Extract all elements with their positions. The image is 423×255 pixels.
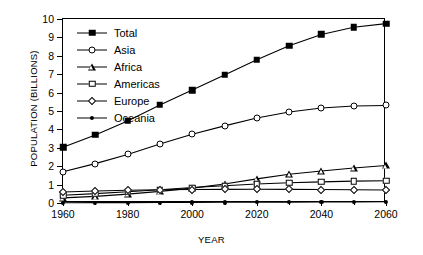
y-tick [57, 185, 63, 186]
data-point-asia [350, 103, 357, 110]
x-tick [257, 201, 258, 206]
legend-marker-icon [77, 78, 107, 90]
y-tick-label: 8 [48, 51, 54, 62]
data-point-americas [318, 179, 325, 186]
y-tick [57, 19, 63, 20]
data-point-asia [124, 151, 131, 158]
legend-marker-icon [77, 95, 107, 107]
data-point-asia [221, 122, 228, 129]
y-tick [57, 37, 63, 38]
x-tick [192, 201, 193, 206]
legend-item-oceania[interactable]: Oceania [77, 110, 160, 125]
x-tick [160, 201, 161, 205]
y-tick [57, 74, 63, 75]
x-tick [321, 201, 322, 206]
x-tick [354, 201, 355, 205]
y-tick [57, 166, 63, 167]
legend-item-total[interactable]: Total [77, 25, 160, 40]
data-point-total [92, 132, 99, 139]
legend-item-europe[interactable]: Europe [77, 93, 160, 108]
x-tick-label: 2000 [181, 209, 204, 220]
legend-label: Oceania [114, 112, 155, 124]
y-tick [57, 111, 63, 112]
data-point-total [350, 24, 357, 31]
data-point-africa [382, 162, 390, 169]
legend-label: Asia [114, 44, 135, 56]
y-axis-title: POPULATION (BILLIONS) [28, 24, 39, 194]
data-point-total [318, 31, 325, 38]
x-tick-label: 2040 [310, 209, 333, 220]
x-tick-label: 1980 [116, 209, 139, 220]
y-tick-label: 4 [48, 124, 54, 135]
legend-label: Europe [114, 95, 149, 107]
legend-item-africa[interactable]: Africa [77, 59, 160, 74]
data-point-asia [189, 131, 196, 138]
data-point-asia [318, 105, 325, 112]
plot-area: 012345678910 196019802000202020402060 To… [62, 18, 385, 202]
y-tick-label: 0 [48, 198, 54, 209]
x-tick [225, 201, 226, 205]
legend-item-americas[interactable]: Americas [77, 76, 160, 91]
y-tick-label: 5 [48, 106, 54, 117]
y-tick [57, 93, 63, 94]
x-axis-title: YEAR [0, 234, 423, 245]
data-point-asia [383, 102, 390, 109]
data-point-africa [350, 165, 358, 172]
data-point-africa [317, 167, 325, 174]
y-tick [57, 56, 63, 57]
y-tick-label: 2 [48, 161, 54, 172]
y-tick-label: 1 [48, 179, 54, 190]
legend-label: Total [114, 27, 137, 39]
data-point-total [221, 72, 228, 79]
x-tick [95, 201, 96, 205]
x-tick [289, 201, 290, 205]
legend-marker-icon [77, 27, 107, 39]
data-point-asia [60, 168, 67, 175]
legend-marker-icon [77, 112, 107, 124]
legend-marker-icon [77, 44, 107, 56]
y-tick-label: 7 [48, 69, 54, 80]
data-point-americas [383, 177, 390, 184]
y-tick-label: 10 [42, 14, 54, 25]
x-tick-label: 1960 [51, 209, 74, 220]
legend-label: Americas [114, 78, 160, 90]
y-tick-label: 6 [48, 87, 54, 98]
data-point-asia [286, 108, 293, 115]
legend-label: Africa [114, 61, 142, 73]
y-tick [57, 148, 63, 149]
y-tick [57, 129, 63, 130]
x-tick [128, 201, 129, 206]
x-tick [386, 201, 387, 206]
data-point-total [254, 56, 261, 63]
data-point-asia [253, 114, 260, 121]
legend-item-asia[interactable]: Asia [77, 42, 160, 57]
data-point-africa [285, 171, 293, 178]
y-tick-label: 3 [48, 143, 54, 154]
data-point-total [286, 42, 293, 49]
data-point-americas [350, 178, 357, 185]
data-point-total [383, 20, 390, 27]
x-tick [63, 201, 64, 206]
y-tick-label: 9 [48, 32, 54, 43]
data-point-asia [92, 160, 99, 167]
legend: TotalAsiaAfricaAmericasEuropeOceania [77, 25, 160, 125]
legend-marker-icon [77, 61, 107, 73]
x-tick-label: 2020 [245, 209, 268, 220]
data-point-asia [156, 140, 163, 147]
population-line-chart: POPULATION (BILLIONS) YEAR 012345678910 … [0, 0, 423, 255]
data-point-total [189, 87, 196, 94]
x-tick-label: 2060 [374, 209, 397, 220]
